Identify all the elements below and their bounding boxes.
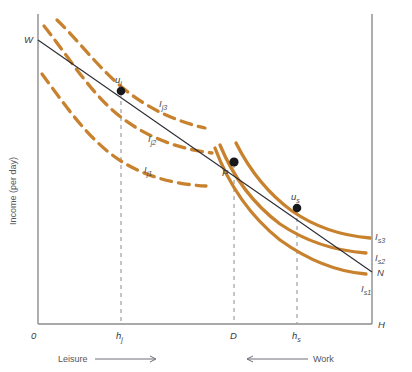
- tick-label-d: D: [230, 330, 237, 341]
- label-axis-origin: 0: [31, 330, 37, 341]
- label-curve-ij1: Ij1: [144, 164, 152, 178]
- indifference-curves-dashed: [42, 20, 212, 186]
- diagram-canvas: uj P us Ij3 Ij2 Ij1 Is3 Is2: [0, 0, 412, 372]
- curve-ij2: [44, 26, 212, 153]
- label-point-n: N: [377, 267, 384, 278]
- annotation-work-label: Work: [313, 354, 334, 364]
- label-point-us: us: [291, 191, 300, 204]
- axes: [38, 14, 372, 324]
- point-p: [229, 157, 238, 166]
- annotation-leisure: Leisure: [58, 354, 156, 364]
- label-point-w: W: [24, 34, 34, 45]
- point-labels: uj P us: [115, 74, 300, 204]
- label-curve-is1: Is1: [361, 283, 371, 296]
- label-point-p: P: [222, 167, 229, 178]
- annotation-work: Work: [247, 354, 334, 364]
- x-tick-labels: hj D hs: [116, 330, 301, 344]
- labor-leisure-diagram: uj P us Ij3 Ij2 Ij1 Is3 Is2: [0, 0, 412, 372]
- tick-label-hs: hs: [292, 330, 301, 343]
- label-curve-is2: Is2: [375, 252, 385, 265]
- point-us: [293, 204, 302, 213]
- guide-lines: [121, 93, 297, 324]
- tick-label-hj: hj: [116, 330, 123, 344]
- label-axis-h: H: [378, 319, 385, 330]
- label-curve-is3: Is3: [375, 231, 385, 244]
- budget-line: [38, 40, 372, 272]
- annotation-leisure-label: Leisure: [58, 354, 88, 364]
- point-uj: [117, 87, 126, 96]
- y-axis-title: Income (per day): [8, 157, 18, 225]
- label-curve-ij3: Ij3: [159, 98, 167, 112]
